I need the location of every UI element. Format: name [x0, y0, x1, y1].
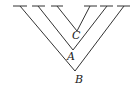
nested-v-diagram: C A B	[0, 0, 138, 86]
diagram-svg: C A B	[0, 0, 138, 86]
label-c: C	[72, 29, 81, 42]
label-a: A	[66, 50, 75, 63]
label-b: B	[74, 73, 83, 86]
branch-middle-a	[38, 6, 107, 50]
branch-inner-c	[57, 6, 90, 31]
